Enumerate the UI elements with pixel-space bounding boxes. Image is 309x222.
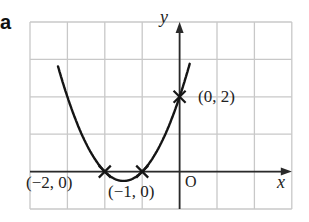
x-axis-label: x — [277, 173, 285, 191]
y-axis-label: y — [160, 8, 168, 26]
point-label-0-2: (0, 2) — [198, 88, 235, 105]
parabola-curve — [58, 64, 190, 181]
point-label-neg1-0: (−1, 0) — [108, 183, 154, 200]
origin-label: O — [185, 174, 197, 190]
point-label-neg2-0: (−2, 0) — [26, 174, 72, 191]
part-label: a — [0, 12, 11, 32]
